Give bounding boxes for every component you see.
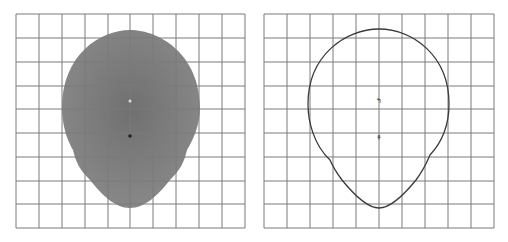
outline-panel: ↰ ↟ <box>264 14 494 228</box>
grid-left <box>16 14 245 228</box>
filled-panel <box>16 14 245 228</box>
marker-upper: ↰ <box>376 97 382 105</box>
grid-right <box>264 14 494 228</box>
figure: ↰ ↟ <box>0 0 508 242</box>
marker-upper <box>129 100 132 103</box>
marker-lower <box>128 134 132 138</box>
marker-lower: ↟ <box>376 134 382 142</box>
